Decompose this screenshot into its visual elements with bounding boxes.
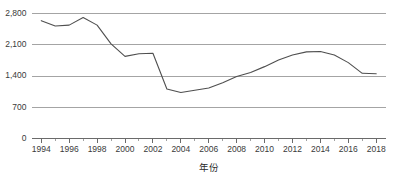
x-tick-label-2000: 2000 — [116, 144, 135, 154]
y-tick-label-0: 0 — [22, 133, 27, 143]
x-tick-label-1996: 1996 — [60, 144, 79, 154]
chart-canvas: 07001,4002,1002,800 19941996199820002002… — [0, 0, 396, 185]
series-line-1 — [41, 18, 376, 93]
x-tick-label-2014: 2014 — [311, 144, 330, 154]
x-axis-title: 年份 — [199, 162, 219, 173]
y-axis-tick-labels: 07001,4002,1002,800 — [5, 8, 27, 143]
x-tick-label-2010: 2010 — [255, 144, 274, 154]
y-tick-label-2800: 2,800 — [5, 8, 27, 18]
x-tick-label-2018: 2018 — [367, 144, 386, 154]
x-axis-ticks-group — [41, 139, 376, 144]
gridlines-group — [32, 14, 387, 108]
y-tick-label-2100: 2,100 — [5, 39, 27, 49]
y-tick-label-1400: 1,400 — [5, 70, 27, 80]
x-tick-label-2006: 2006 — [199, 144, 218, 154]
x-tick-label-1998: 1998 — [88, 144, 107, 154]
line-chart: 07001,4002,1002,800 19941996199820002002… — [0, 0, 396, 185]
x-tick-label-2008: 2008 — [227, 144, 246, 154]
x-tick-label-1994: 1994 — [32, 144, 51, 154]
x-tick-label-2004: 2004 — [171, 144, 190, 154]
x-tick-label-2016: 2016 — [339, 144, 358, 154]
x-tick-label-2002: 2002 — [143, 144, 162, 154]
y-tick-label-700: 700 — [12, 102, 26, 112]
x-axis-tick-labels: 1994199619982000200220042006200820102012… — [32, 144, 386, 154]
x-tick-label-2012: 2012 — [283, 144, 302, 154]
data-series-group — [41, 18, 376, 93]
